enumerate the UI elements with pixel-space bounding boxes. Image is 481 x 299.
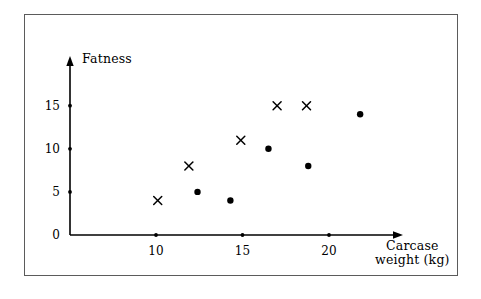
data-point-cross-2 — [237, 136, 245, 144]
data-markers-group — [154, 102, 364, 205]
axes-group — [66, 56, 403, 239]
scatter-plot-figure: Fatness Carcase weight (kg) 101520051015 — [0, 0, 481, 299]
data-point-cross-1 — [185, 162, 193, 170]
tick-marks-group — [68, 104, 331, 237]
data-point-dot-3 — [305, 163, 311, 169]
y-tick-label-0: 0 — [22, 229, 60, 241]
data-point-cross-0 — [154, 197, 162, 205]
x-tick-mark-20 — [327, 233, 331, 237]
x-axis-title-line-2: weight (kg) — [375, 253, 450, 267]
y-axis-title: Fatness — [82, 52, 132, 66]
y-tick-mark-5 — [68, 190, 72, 194]
data-point-dot-2 — [265, 146, 271, 152]
x-axis-title-line-1: Carcase — [375, 239, 450, 253]
y-tick-mark-10 — [68, 147, 72, 151]
data-point-cross-4 — [303, 102, 311, 110]
y-tick-label-5: 5 — [22, 186, 60, 198]
y-tick-label-10: 10 — [22, 143, 60, 155]
x-tick-mark-15 — [241, 233, 245, 237]
y-tick-mark-15 — [68, 104, 72, 108]
x-tick-label-20: 20 — [309, 245, 349, 257]
x-tick-label-10: 10 — [136, 245, 176, 257]
data-point-dot-1 — [227, 197, 233, 203]
data-point-cross-3 — [273, 102, 281, 110]
x-tick-label-15: 15 — [223, 245, 263, 257]
x-axis-title: Carcase weight (kg) — [375, 239, 450, 267]
data-point-dot-0 — [194, 189, 200, 195]
y-axis-arrow-icon — [66, 56, 73, 66]
x-tick-mark-10 — [154, 233, 158, 237]
y-tick-label-15: 15 — [22, 100, 60, 112]
data-point-dot-4 — [357, 111, 363, 117]
